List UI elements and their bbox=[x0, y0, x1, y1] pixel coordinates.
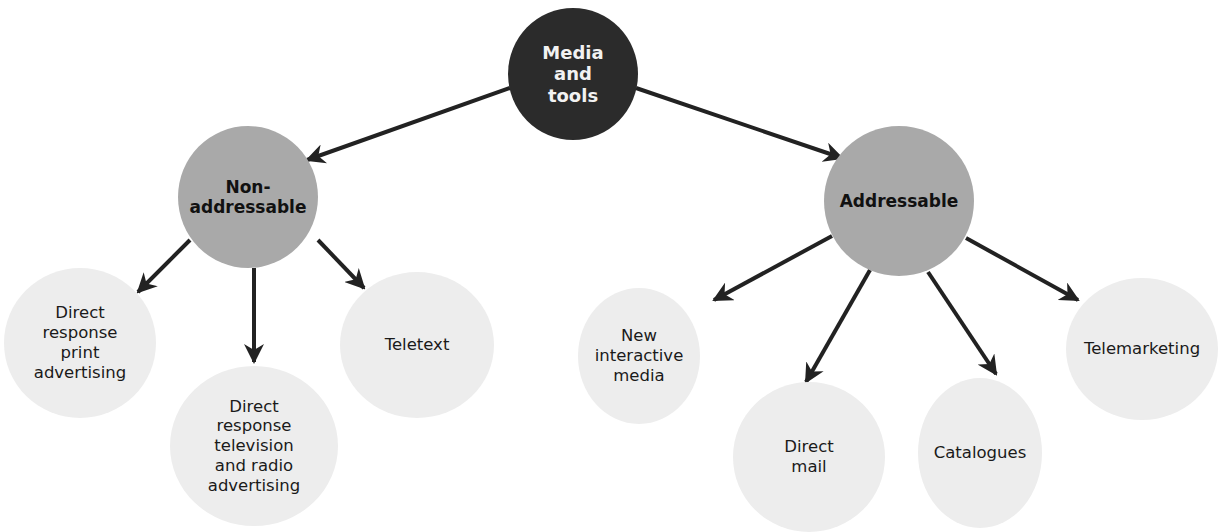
node-direct-response-print: Direct response print advertising bbox=[4, 268, 156, 418]
arrow-addr-to-cat bbox=[928, 272, 996, 374]
node-catalogues: Catalogues bbox=[918, 378, 1042, 528]
node-new-interactive-media: New interactive media bbox=[578, 288, 700, 424]
node-label: Catalogues bbox=[934, 443, 1027, 463]
node-teletext: Teletext bbox=[340, 272, 494, 418]
node-media-and-tools: Media and tools bbox=[508, 8, 638, 140]
node-direct-mail: Direct mail bbox=[733, 382, 885, 532]
arrow-non-to-print bbox=[138, 240, 190, 292]
arrow-addr-to-nim bbox=[714, 236, 832, 300]
node-label: Direct response print advertising bbox=[34, 303, 126, 382]
node-label: New interactive media bbox=[595, 326, 684, 385]
node-direct-response-tv-radio: Direct response television and radio adv… bbox=[170, 366, 338, 526]
node-label: Media and tools bbox=[542, 42, 603, 107]
node-label: Non- addressable bbox=[190, 177, 307, 218]
node-label: Teletext bbox=[385, 335, 450, 355]
node-telemarketing: Telemarketing bbox=[1066, 278, 1218, 420]
node-label: Addressable bbox=[840, 191, 959, 211]
arrow-root-to-non-addressable bbox=[307, 88, 510, 160]
arrow-non-to-teletext bbox=[318, 240, 364, 288]
node-label: Telemarketing bbox=[1084, 339, 1200, 359]
node-addressable: Addressable bbox=[824, 126, 974, 276]
arrow-addr-to-mail bbox=[806, 270, 870, 382]
arrow-addr-to-tele bbox=[966, 238, 1078, 300]
arrow-root-to-addressable bbox=[636, 88, 842, 158]
node-label: Direct response television and radio adv… bbox=[208, 397, 300, 496]
node-label: Direct mail bbox=[784, 437, 833, 477]
node-non-addressable: Non- addressable bbox=[178, 126, 318, 268]
